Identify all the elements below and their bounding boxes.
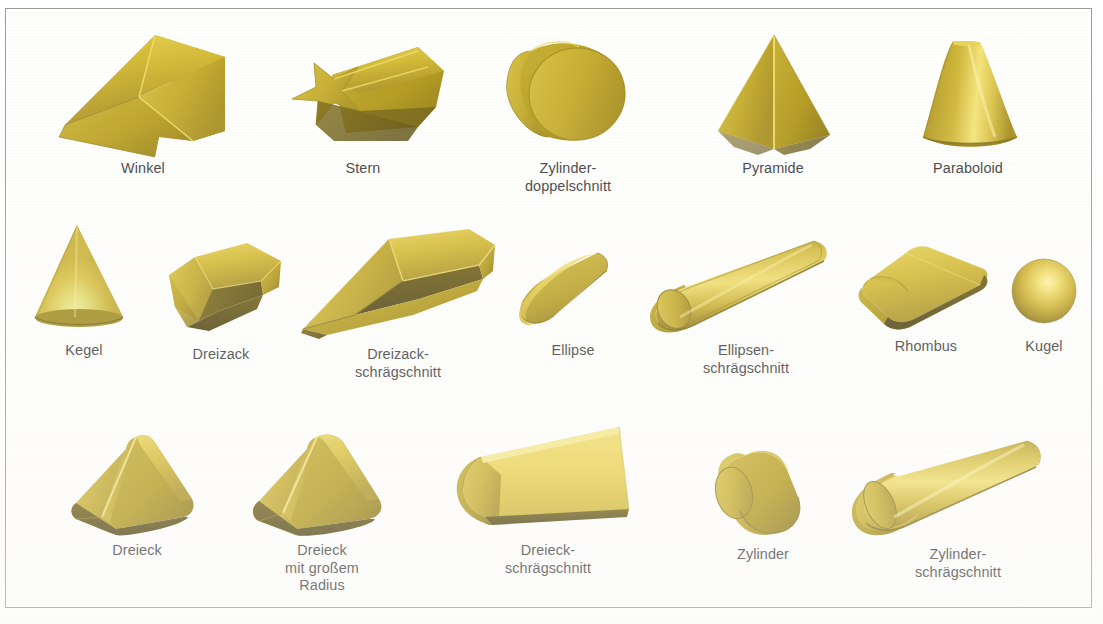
shape-row-2: Kegel Dreizack xyxy=(6,217,1093,407)
shape-cell-kegel: Kegel xyxy=(14,217,154,359)
shape-cell-dreizack: Dreizack xyxy=(146,235,296,363)
sphere-icon xyxy=(1001,251,1087,337)
dreizack-illustration xyxy=(146,235,296,345)
paraboloid-icon xyxy=(883,33,1053,159)
shape-cell-pyramide: Pyramide xyxy=(678,27,868,177)
shape-cell-dreizackschraegschnitt: Dreizack- schrägschnitt xyxy=(288,223,508,380)
star-extrusion-icon xyxy=(268,41,458,159)
ellipse-illustration xyxy=(498,245,648,341)
rhombus-illustration xyxy=(846,239,1006,337)
dreieckschraegschnitt-illustration xyxy=(418,417,678,541)
dreizackschraegschnitt-illustration xyxy=(288,223,508,345)
rhombus-plate-icon xyxy=(856,239,996,337)
shape-label: Paraboloid xyxy=(875,159,1061,177)
paraboloid-illustration xyxy=(868,33,1068,159)
zylinderdoppelschnitt-illustration xyxy=(458,25,678,159)
shape-label: Zylinder- schrägschnitt xyxy=(846,545,1069,580)
shape-row-3: Dreieck Dreieck mit großem Radius xyxy=(6,417,1093,607)
shape-cell-ellipsenschraegschnitt: Ellipsen- schrägschnitt xyxy=(636,233,856,376)
ellipsenschraegschnitt-illustration xyxy=(636,233,856,341)
shape-cell-zylinderschraegschnitt: Zylinder- schrägschnitt xyxy=(838,429,1078,580)
shape-cell-dreieckschraegschnitt: Dreieck- schrägschnitt xyxy=(418,417,678,576)
dreieck-illustration xyxy=(42,425,232,541)
cylinder-icon xyxy=(688,441,838,545)
shape-label: Winkel xyxy=(36,159,250,177)
shape-cell-kugel: Kugel xyxy=(996,251,1092,355)
shape-cell-winkel: Winkel xyxy=(28,19,258,177)
shape-label: Ellipsen- schrägschnitt xyxy=(644,341,849,376)
shape-cell-zylinderdoppelschnitt: Zylinder- doppelschnitt xyxy=(458,25,678,194)
figure-frame: Winkel Stern xyxy=(5,8,1092,608)
shape-label: Kugel xyxy=(999,337,1088,355)
shape-label: Stern xyxy=(265,159,460,177)
shape-label: Pyramide xyxy=(685,159,862,177)
shape-label: Zylinder- doppelschnitt xyxy=(466,159,671,194)
triangle-bevel-icon xyxy=(423,417,673,541)
shape-cell-rhombus: Rhombus xyxy=(846,239,1006,355)
shape-cell-zylinder: Zylinder xyxy=(678,441,848,563)
triangle-prism-icon xyxy=(52,425,222,541)
kegel-illustration xyxy=(14,217,154,341)
angle-extrusion-icon xyxy=(43,19,243,159)
cropped-caption-remnant xyxy=(12,612,712,622)
zylinder-illustration xyxy=(678,441,848,545)
shape-cell-stern: Stern xyxy=(258,41,468,177)
ellipse-bevel-icon xyxy=(646,233,846,341)
shape-label: Ellipse xyxy=(503,341,643,359)
shape-label: Dreieck- schrägschnitt xyxy=(427,541,669,576)
pyramid-icon xyxy=(688,27,858,159)
cylinder-bevel-icon xyxy=(848,429,1068,545)
pyramide-illustration xyxy=(678,27,868,159)
shape-cell-dreieck-grosser-radius: Dreieck mit großem Radius xyxy=(222,425,422,594)
dreieck-grosser-radius-illustration xyxy=(222,425,422,541)
shape-label: Dreieck xyxy=(49,541,226,559)
shape-label: Kegel xyxy=(19,341,149,359)
zylinderschraegschnitt-illustration xyxy=(838,429,1078,545)
shape-cell-dreieck: Dreieck xyxy=(42,425,232,559)
trident-bevel-icon xyxy=(293,223,503,345)
shape-cell-ellipse: Ellipse xyxy=(498,245,648,359)
winkel-illustration xyxy=(28,19,258,159)
stern-illustration xyxy=(258,41,468,159)
triangle-prism-large-radius-icon xyxy=(237,425,407,541)
cone-icon xyxy=(19,217,149,341)
shape-label: Dreizack- schrägschnitt xyxy=(296,345,501,380)
trident-short-icon xyxy=(151,235,291,345)
ellipse-short-icon xyxy=(513,245,633,341)
shape-cell-paraboloid: Paraboloid xyxy=(868,33,1068,177)
shape-label: Dreieck mit großem Radius xyxy=(229,541,415,594)
kugel-illustration xyxy=(996,251,1092,337)
shape-label: Zylinder xyxy=(684,545,842,563)
shape-label: Rhombus xyxy=(852,337,1001,355)
cylinder-double-cut-icon xyxy=(473,25,663,159)
shape-row-1: Winkel Stern xyxy=(6,19,1093,209)
shape-label: Dreizack xyxy=(151,345,291,363)
